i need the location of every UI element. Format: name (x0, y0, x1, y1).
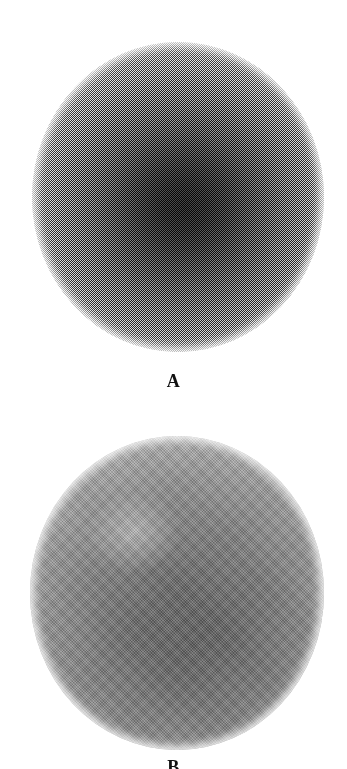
panel-a-sphere-image (32, 42, 324, 352)
panel-b-sphere-image (30, 436, 324, 750)
panel-b (0, 400, 347, 769)
panel-a: A (0, 0, 347, 400)
panel-label-b-clip: B (0, 758, 347, 769)
panel-label-b: B (0, 758, 347, 769)
panel-a-edge-feather (32, 42, 324, 352)
panel-label-a: A (0, 372, 347, 390)
figure-container: A B (0, 0, 347, 769)
panel-b-edge-feather (30, 436, 324, 750)
